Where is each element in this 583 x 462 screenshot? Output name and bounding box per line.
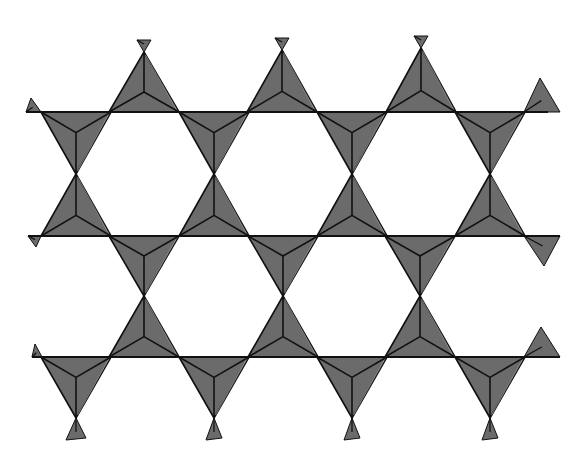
kagome-lattice-diagram xyxy=(0,0,583,462)
tetrahedron-t-b1 xyxy=(41,112,111,174)
tetrahedron-t-a2 xyxy=(247,50,317,112)
tetrahedron-t-c1 xyxy=(41,174,111,236)
tetrahedron-t-e3 xyxy=(385,296,455,357)
tetrahedron-t-a1 xyxy=(109,52,179,112)
tetrahedron-t-d1 xyxy=(109,236,179,296)
tetrahedron-t-e1 xyxy=(109,296,179,357)
tetrahedra-layer xyxy=(41,48,525,418)
tetrahedron-t-f2 xyxy=(179,357,249,418)
tetrahedral-sheet-figure xyxy=(0,0,583,462)
partial-tetrahedron-p-right-2 xyxy=(524,236,560,266)
tetrahedron-t-d3 xyxy=(385,236,455,296)
tetrahedron-t-c2 xyxy=(179,174,249,236)
tetrahedron-t-c4 xyxy=(455,174,525,236)
tetrahedron-t-f3 xyxy=(317,357,387,418)
partial-tetrahedron-p-right-1 xyxy=(524,78,560,112)
tetrahedron-t-d2 xyxy=(248,236,318,296)
tetrahedron-t-b4 xyxy=(455,112,525,174)
tetrahedron-t-c3 xyxy=(317,174,387,236)
tetrahedron-t-b2 xyxy=(179,112,249,174)
tetrahedron-t-f4 xyxy=(455,357,525,418)
partial-tetrahedron-p-right-3 xyxy=(524,327,560,357)
tetrahedron-t-e2 xyxy=(248,296,318,357)
tetrahedron-t-a3 xyxy=(386,48,456,112)
tetrahedron-t-b3 xyxy=(317,112,387,174)
tetrahedron-t-f1 xyxy=(41,357,111,418)
